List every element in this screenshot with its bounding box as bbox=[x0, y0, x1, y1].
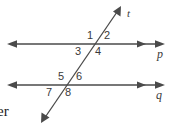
geometry-figure: 1 2 3 4 5 6 7 8 p q t er bbox=[0, 0, 169, 125]
line-p-left-arrowhead bbox=[7, 40, 17, 48]
angle-label-8: 8 bbox=[65, 87, 71, 98]
line-t bbox=[46, 12, 117, 116]
angle-label-7: 7 bbox=[46, 87, 52, 98]
angle-label-6: 6 bbox=[76, 71, 82, 82]
line-q-arrow-tick bbox=[137, 82, 146, 89]
angle-label-2: 2 bbox=[104, 30, 110, 41]
clipped-edge-text: er bbox=[0, 104, 9, 119]
line-t-group bbox=[41, 6, 121, 123]
line-p-group bbox=[7, 40, 165, 48]
figure-canvas bbox=[0, 0, 169, 125]
line-label-t: t bbox=[127, 8, 130, 19]
angle-label-1: 1 bbox=[87, 30, 93, 41]
angle-label-5: 5 bbox=[58, 71, 64, 82]
angle-label-4: 4 bbox=[95, 46, 101, 57]
line-p-arrow-tick bbox=[137, 41, 146, 48]
angle-label-3: 3 bbox=[75, 46, 81, 57]
line-t-bottom-arrowhead bbox=[41, 113, 50, 124]
line-label-q: q bbox=[156, 89, 162, 101]
line-label-p: p bbox=[157, 48, 163, 60]
line-q-group bbox=[7, 81, 165, 89]
line-q-left-arrowhead bbox=[7, 81, 17, 89]
line-t-top-arrowhead bbox=[113, 6, 121, 17]
